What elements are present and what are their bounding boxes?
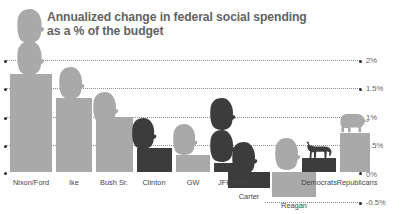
bar-gw [176, 155, 210, 172]
ytick-label-2pct: 2% [366, 56, 377, 65]
bar-ike [56, 98, 92, 172]
gridline-dot-left [4, 60, 7, 63]
head-silhouette-carter [231, 142, 261, 174]
bar-republicans [340, 133, 370, 172]
category-label-ike: Ike [69, 178, 79, 187]
gridline-neg-0-5pct [265, 202, 360, 203]
gridline-dot-left [4, 145, 7, 148]
gridline-dot-right [359, 88, 362, 91]
head-silhouette-gw [172, 124, 201, 155]
bar-nixon-ford [10, 74, 52, 172]
donkey-silhouette [303, 141, 333, 159]
category-label-republicans: Republicans [337, 178, 378, 187]
head-silhouette-nixon [16, 9, 48, 43]
gridline-dot-right [359, 60, 362, 63]
bar-democrats [302, 158, 336, 172]
head-silhouette-clinton [131, 118, 160, 149]
chart-container: Annualized change in federal social spen… [0, 0, 404, 214]
head-silhouette-bush-sr [92, 92, 122, 124]
category-label-clinton: Clinton [142, 178, 165, 187]
category-label-nixon-ford: Nixon/Ford [13, 178, 49, 187]
gridline-2pct [5, 60, 360, 61]
category-label-reagan: Reagan [281, 201, 307, 210]
elephant-silhouette [339, 113, 371, 134]
head-silhouette-reagan [274, 138, 304, 170]
ytick-label-1-5pct: 1.5% [366, 84, 383, 93]
baseline-dot-right [359, 172, 362, 175]
category-label-jfk-lbj: JFK/LBJ [218, 178, 246, 187]
category-label-democrats: Democrats [301, 178, 337, 187]
bar-clinton [137, 148, 172, 172]
head-silhouette-ike [58, 67, 88, 99]
ytick-label-neg-0-5pct: -0.5% [366, 198, 386, 207]
plot-area: 2% 1.5% 1% 0.5% 0% -0.5% [0, 0, 404, 214]
baseline-dot-left [4, 172, 7, 175]
category-label-gw: GW [187, 178, 200, 187]
category-label-carter: Carter [239, 192, 260, 201]
head-silhouette-ford [16, 41, 48, 75]
head-silhouette-jfk [209, 98, 239, 130]
gridline-dot-right [359, 202, 362, 205]
bar-bush-sr [96, 117, 133, 172]
category-label-bush-sr: Bush Sr. [100, 178, 128, 187]
gridline-dot-left [4, 117, 7, 120]
gridline-dot-left [4, 88, 7, 91]
